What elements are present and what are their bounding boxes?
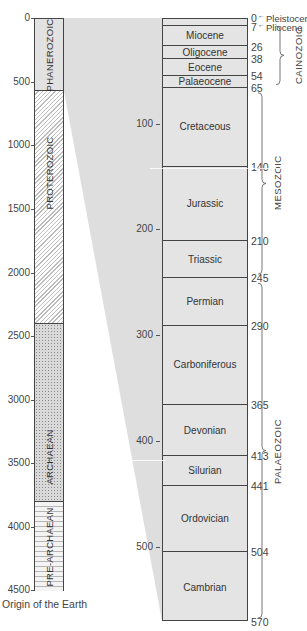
brace-palaeozoic	[258, 283, 266, 618]
brace-mesozoic	[258, 93, 266, 274]
era-label-palaeozoic: PALAEOZOIC	[272, 419, 283, 484]
scan-artifact	[150, 168, 307, 169]
era-braces	[0, 0, 307, 631]
era-label-cainozoic: CAINOZOIC	[293, 27, 304, 84]
era-label-mesozoic: MESOZOIC	[272, 155, 283, 210]
brace-cainozoic	[276, 26, 284, 85]
scan-artifact	[130, 460, 165, 461]
